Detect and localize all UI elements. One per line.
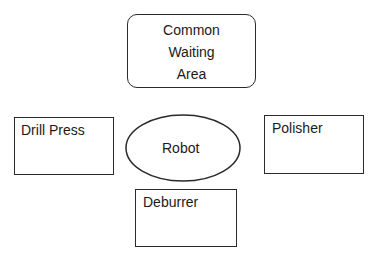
polisher-node: Polisher xyxy=(264,115,364,174)
deburrer-node: Deburrer xyxy=(135,189,237,247)
polisher-label: Polisher xyxy=(272,121,323,135)
deburrer-label: Deburrer xyxy=(143,195,198,209)
robot-label: Robot xyxy=(162,141,199,155)
